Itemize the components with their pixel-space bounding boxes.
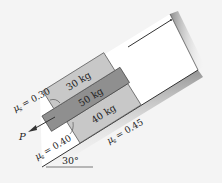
force-p-label: P bbox=[18, 131, 26, 142]
incline-block-diagram: 30° 40 kg 50 kg 30 kg P μ s = 0.30 μ s =… bbox=[0, 0, 222, 183]
incline-angle-label: 30° bbox=[62, 155, 79, 166]
cable-anchor bbox=[170, 19, 172, 21]
